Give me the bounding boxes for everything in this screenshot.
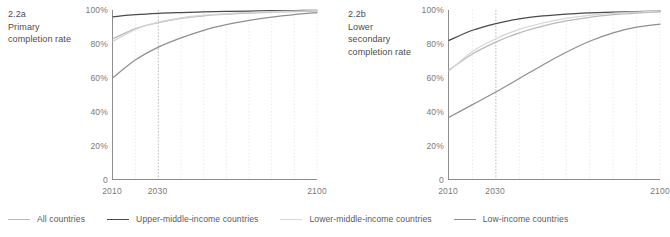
x-tick-label-2-2a: 2100 xyxy=(307,186,327,196)
legend-item[interactable]: Low-income countries xyxy=(454,214,569,224)
x-tick-label-2-2a: 2010 xyxy=(102,186,122,196)
y-tick-label-2-2a: 20% xyxy=(90,141,108,151)
y-tick-label-2-2a: 40% xyxy=(90,107,108,117)
chart-svg-2-2b xyxy=(449,10,660,179)
chart-title-2-2b: 2.2b Lower secondary completion rate xyxy=(348,8,418,58)
legend-item[interactable]: Upper-middle-income countries xyxy=(107,214,258,224)
y-tick-label-2-2b: 20% xyxy=(426,141,444,151)
y-tick-label-2-2a: 0 xyxy=(103,175,108,185)
legend-swatch-icon xyxy=(454,219,476,220)
legend-label: Low-income countries xyxy=(483,214,569,224)
y-tick-label-2-2b: 60% xyxy=(426,73,444,83)
y-tick-label-2-2a: 100% xyxy=(85,5,108,15)
y-tick-label-2-2b: 0 xyxy=(439,175,444,185)
y-axis-labels-2-2a: 020%40%60%80%100% xyxy=(74,10,108,180)
chart-title-text-2-2b: Lower secondary completion rate xyxy=(348,21,418,59)
x-tick-label-2-2b: 2030 xyxy=(485,186,505,196)
legend-label: Upper-middle-income countries xyxy=(136,214,258,224)
x-axis-labels-2-2b: 201020302100 xyxy=(448,186,660,200)
legend-swatch-icon xyxy=(8,219,30,220)
legend-item[interactable]: Lower-middle-income countries xyxy=(280,214,431,224)
chart-title-text-2-2a: Primary completion rate xyxy=(8,21,78,46)
legend-label: Lower-middle-income countries xyxy=(309,214,431,224)
legend-item[interactable]: All countries xyxy=(8,214,85,224)
plot-area-wrapper-2-2b: 020%40%60%80%100% 201020302100 xyxy=(448,10,660,180)
series-line-2-2a xyxy=(113,13,317,78)
y-axis-labels-2-2b: 020%40%60%80%100% xyxy=(410,10,444,180)
chart-panel-2-2b: 2.2b Lower secondary completion rate 020… xyxy=(340,0,670,200)
figure-root: 2.2a Primary completion rate 020%40%60%8… xyxy=(0,0,670,237)
legend-swatch-icon xyxy=(280,219,302,220)
plot-area-wrapper-2-2a: 020%40%60%80%100% 201020302100 xyxy=(112,10,317,180)
chart-svg-2-2a xyxy=(113,10,317,179)
series-line-2-2b xyxy=(449,11,660,40)
y-tick-label-2-2b: 40% xyxy=(426,107,444,117)
legend-swatch-icon xyxy=(107,219,129,220)
x-tick-label-2-2a: 2030 xyxy=(148,186,168,196)
plot-area-2-2a xyxy=(112,10,317,180)
plot-area-2-2b xyxy=(448,10,660,180)
y-tick-label-2-2b: 80% xyxy=(426,39,444,49)
series-line-2-2b xyxy=(449,24,660,117)
chart-number-2-2a: 2.2a xyxy=(8,8,78,21)
legend-label: All countries xyxy=(37,214,85,224)
chart-legend: All countriesUpper-middle-income countri… xyxy=(0,206,670,232)
y-tick-label-2-2a: 80% xyxy=(90,39,108,49)
chart-title-2-2a: 2.2a Primary completion rate xyxy=(8,8,78,46)
chart-number-2-2b: 2.2b xyxy=(348,8,418,21)
y-tick-label-2-2b: 100% xyxy=(421,5,444,15)
x-tick-label-2-2b: 2100 xyxy=(650,186,670,196)
series-line-2-2b xyxy=(449,11,660,71)
chart-panel-2-2a: 2.2a Primary completion rate 020%40%60%8… xyxy=(0,0,340,200)
y-tick-label-2-2a: 60% xyxy=(90,73,108,83)
x-tick-label-2-2b: 2010 xyxy=(438,186,458,196)
x-axis-labels-2-2a: 201020302100 xyxy=(112,186,317,200)
